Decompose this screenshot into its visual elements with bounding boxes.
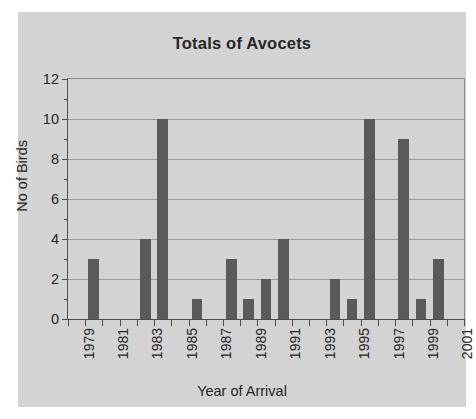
y-tick-label: 4 xyxy=(51,231,59,247)
y-tick-label: 6 xyxy=(51,191,59,207)
x-axis-title: Year of Arrival xyxy=(18,383,466,399)
x-tick-label: 1995 xyxy=(356,328,372,359)
bar xyxy=(243,299,254,319)
x-tick-mark xyxy=(464,319,465,326)
x-tick-mark xyxy=(68,319,69,326)
x-tick-label: 1981 xyxy=(115,328,131,359)
x-tick-mark xyxy=(102,319,103,326)
chart-container: Totals of Avocets No of Birds 024681012 … xyxy=(0,0,476,419)
bar xyxy=(88,259,99,319)
x-tick-label: 1983 xyxy=(149,328,165,359)
bar-series xyxy=(68,79,464,319)
x-tick-mark xyxy=(292,319,293,326)
x-tick-mark xyxy=(275,319,276,326)
chart-plot-plate: Totals of Avocets No of Birds 024681012 … xyxy=(18,12,466,407)
x-tick-label: 1989 xyxy=(253,328,269,359)
x-tick-mark xyxy=(137,319,138,326)
x-tick-mark xyxy=(154,319,155,326)
x-tick-mark xyxy=(309,319,310,326)
bar xyxy=(226,259,237,319)
y-tick-label: 2 xyxy=(51,271,59,287)
x-tick-label: 1997 xyxy=(391,328,407,359)
chart-title: Totals of Avocets xyxy=(18,34,466,53)
x-tick-label: 1991 xyxy=(287,328,303,359)
x-tick-mark xyxy=(326,319,327,326)
x-tick-mark xyxy=(240,319,241,326)
y-axis-title: No of Birds xyxy=(14,140,30,212)
y-tick-label: 12 xyxy=(43,71,59,87)
x-tick-mark xyxy=(171,319,172,326)
x-tick-mark xyxy=(447,319,448,326)
x-tick-mark xyxy=(361,319,362,326)
x-tick-label: 1999 xyxy=(425,328,441,359)
y-tick-label: 0 xyxy=(51,311,59,327)
y-tick-label: 8 xyxy=(51,151,59,167)
bar xyxy=(140,239,151,319)
bar xyxy=(433,259,444,319)
x-tick-mark xyxy=(395,319,396,326)
bar xyxy=(347,299,358,319)
x-tick-label: 1979 xyxy=(81,328,97,359)
x-tick-mark xyxy=(120,319,121,326)
bar xyxy=(192,299,203,319)
x-tick-mark xyxy=(430,319,431,326)
x-tick-mark xyxy=(223,319,224,326)
x-tick-mark xyxy=(206,319,207,326)
x-tick-mark xyxy=(343,319,344,326)
x-tick-label: 1987 xyxy=(218,328,234,359)
bar xyxy=(261,279,272,319)
x-tick-mark xyxy=(257,319,258,326)
bar xyxy=(330,279,341,319)
bar xyxy=(398,139,409,319)
bar xyxy=(416,299,427,319)
x-tick-mark xyxy=(189,319,190,326)
x-tick-label: 1993 xyxy=(322,328,338,359)
bar xyxy=(157,119,168,319)
x-axis-tick-labels: 1979198119831985198719891991199319951997… xyxy=(67,328,465,380)
plot-area: 024681012 xyxy=(67,78,465,320)
bar xyxy=(364,119,375,319)
x-tick-mark xyxy=(85,319,86,326)
x-tick-mark xyxy=(378,319,379,326)
x-tick-mark xyxy=(412,319,413,326)
x-tick-label: 1985 xyxy=(184,328,200,359)
y-tick-label: 10 xyxy=(43,111,59,127)
bar xyxy=(278,239,289,319)
x-tick-label: 2001 xyxy=(459,328,475,359)
